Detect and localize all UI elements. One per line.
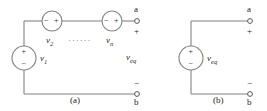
source-vn-minus-sign: − — [104, 17, 109, 25]
panel-b-terminal-a-label: a — [247, 5, 251, 14]
source-v1-label: v1 — [40, 54, 47, 63]
panel-a-terminal-a-node — [135, 19, 140, 24]
source-v2-plus-sign: + — [54, 17, 59, 25]
source-vn-label: vn — [106, 36, 113, 45]
source-v1-plus-sign: + — [22, 48, 27, 56]
panel-a-caption: (a) — [70, 96, 80, 105]
panel-b-terminal-a-node — [248, 19, 253, 24]
source-v2-label-subscript: 2 — [50, 40, 53, 47]
source-v1-minus-sign: − — [22, 60, 27, 68]
source-v2-minus-sign: − — [44, 17, 49, 25]
panel-a-terminal-b-label: b — [134, 98, 139, 107]
panel-b-terminal-b-node — [248, 92, 253, 97]
source-veq-plus-sign: + — [189, 48, 194, 56]
series-ellipsis: ······ — [68, 35, 91, 45]
source-vn-label-subscript: n — [110, 40, 113, 47]
panel-a-port-plus-sign: + — [134, 27, 139, 36]
panel-b-caption: (b) — [213, 96, 224, 105]
source-veq-label-subscript: eq — [211, 58, 217, 65]
panel-a-terminal-a-label: a — [134, 5, 138, 14]
circuit-figure: + − v1 − + v2 ······ − + vn a + veq − b … — [0, 0, 267, 111]
panel-a-port-minus-sign: − — [134, 79, 139, 88]
panel-a-terminal-b-node — [135, 92, 140, 97]
panel-b-port-plus-sign: + — [247, 27, 252, 36]
panel-b-terminal-b-label: b — [247, 98, 252, 107]
source-veq-minus-sign: − — [189, 60, 194, 68]
source-v1-label-subscript: 1 — [44, 58, 47, 65]
source-vn-plus-sign: + — [114, 17, 119, 25]
panel-a-port-voltage-subscript: eq — [130, 57, 136, 64]
panel-a-port-voltage-label: veq — [126, 53, 136, 62]
source-veq-label: veq — [207, 54, 217, 63]
source-v2-label: v2 — [46, 36, 53, 45]
panel-b-port-minus-sign: − — [247, 79, 252, 88]
